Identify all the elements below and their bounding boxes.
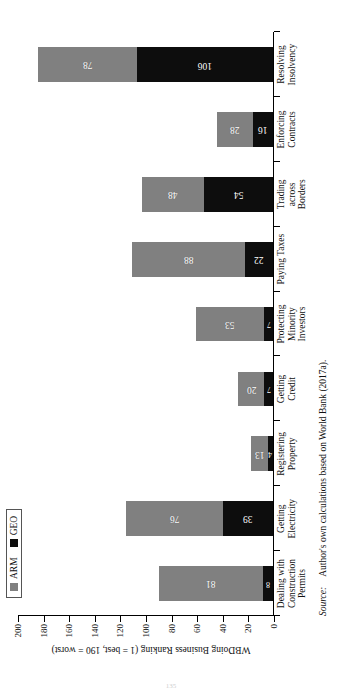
x-category-label-line: Resolving xyxy=(276,37,287,93)
bar-segment-geo[interactable]: 7 xyxy=(264,372,273,407)
x-category-label-line: Enforcing xyxy=(276,101,287,157)
y-tick-label: 160 xyxy=(65,624,74,660)
y-tick-mark xyxy=(146,616,147,622)
bar-segment-geo[interactable]: 22 xyxy=(245,242,273,277)
bar-value-label: 39 xyxy=(243,514,253,524)
bar-value-label: 4 xyxy=(268,450,272,458)
y-tick-mark xyxy=(248,616,249,622)
bar-segment-geo[interactable]: 7 xyxy=(264,307,273,342)
y-tick-label: 80 xyxy=(167,624,176,660)
y-tick-mark xyxy=(274,616,275,622)
x-category-label-line: Borders xyxy=(297,166,308,222)
bar-value-label: 8 xyxy=(266,580,270,588)
y-tick-mark xyxy=(172,616,173,622)
y-tick-mark xyxy=(44,616,45,622)
bar-value-label: 20 xyxy=(247,384,257,394)
x-category-label-line: Credit xyxy=(287,361,298,417)
x-category-label-line: Contracts xyxy=(287,101,298,157)
x-category-label: GettingElectricity xyxy=(276,491,338,547)
bar-value-label: 81 xyxy=(206,579,216,589)
bar-group[interactable]: 2288 xyxy=(132,231,273,287)
document-page: ARM GEO WBDoing Business Ranking (1 = be… xyxy=(0,0,342,694)
x-category-label-line: Property xyxy=(287,426,298,482)
y-tick-label: 180 xyxy=(39,624,48,660)
bar-group[interactable]: 5448 xyxy=(142,166,273,222)
y-tick-mark xyxy=(197,616,198,622)
y-tick-mark xyxy=(69,616,70,622)
x-category-label: RegisteringProperty xyxy=(276,426,338,482)
bar-group[interactable]: 753 xyxy=(196,296,273,352)
y-axis-ticks xyxy=(18,616,274,622)
y-tick-label: 60 xyxy=(193,624,202,660)
bar-value-label: 76 xyxy=(170,514,180,524)
bar-value-label: 16 xyxy=(258,125,268,135)
bar-segment-arm[interactable]: 48 xyxy=(142,177,203,212)
bar-value-label: 7 xyxy=(267,385,271,393)
bar-value-label: 54 xyxy=(234,190,244,200)
bar-segment-arm[interactable]: 81 xyxy=(159,566,263,601)
source-label: Source: xyxy=(318,587,328,616)
bar-segment-geo[interactable]: 8 xyxy=(263,566,273,601)
bar-segment-arm[interactable]: 76 xyxy=(126,501,223,536)
y-tick-label: 40 xyxy=(218,624,227,660)
figure-rotated-bar-chart: ARM GEO WBDoing Business Ranking (1 = be… xyxy=(0,0,342,694)
bar-group[interactable]: 10678 xyxy=(38,37,274,93)
bar-segment-arm[interactable]: 28 xyxy=(217,112,253,147)
bar-segment-geo[interactable]: 106 xyxy=(137,47,273,82)
x-category-label-line: Getting xyxy=(276,491,287,547)
source-text: Author's own calculations based on World… xyxy=(318,360,328,577)
bar-segment-arm[interactable]: 20 xyxy=(238,372,264,407)
x-category-label-line: Insolvency xyxy=(287,37,298,93)
bar-segment-arm[interactable]: 88 xyxy=(132,242,245,277)
y-tick-mark xyxy=(120,616,121,622)
x-axis-category-labels: Dealing withConstructionPermitsGettingEl… xyxy=(276,32,338,616)
y-tick-mark xyxy=(18,616,19,622)
y-tick-mark xyxy=(223,616,224,622)
x-category-label-line: Paying Taxes xyxy=(276,231,287,287)
x-category-label-line: Getting xyxy=(276,361,287,417)
y-tick-label: 140 xyxy=(90,624,99,660)
x-category-label-line: Electricity xyxy=(287,491,298,547)
y-tick-label: 0 xyxy=(270,624,279,660)
bar-groups: 881397641372075322885448162810678 xyxy=(17,32,273,616)
bar-segment-geo[interactable]: 54 xyxy=(204,177,273,212)
y-tick-label: 20 xyxy=(244,624,253,660)
bar-group[interactable]: 413 xyxy=(251,426,273,482)
bar-group[interactable]: 1628 xyxy=(217,101,273,157)
bar-value-label: 22 xyxy=(254,254,264,264)
x-category-label: GettingCredit xyxy=(276,361,338,417)
bar-value-label: 7 xyxy=(267,320,271,328)
bar-segment-arm[interactable]: 53 xyxy=(196,307,264,342)
bar-segment-geo[interactable]: 4 xyxy=(268,436,273,471)
x-category-label: ResolvingInsolvency xyxy=(276,37,338,93)
x-category-label-line: Permits xyxy=(297,556,308,612)
y-tick-label: 200 xyxy=(14,624,23,660)
bar-value-label: 13 xyxy=(255,449,265,459)
x-category-label-line: across xyxy=(287,166,298,222)
bar-segment-arm[interactable]: 13 xyxy=(251,436,268,471)
bar-value-label: 53 xyxy=(225,319,235,329)
bar-segment-geo[interactable]: 39 xyxy=(223,501,273,536)
x-category-label: TradingacrossBorders xyxy=(276,166,338,222)
x-category-label-line: Minority xyxy=(287,296,298,352)
x-category-label-line: Construction xyxy=(287,556,298,612)
bar-group[interactable]: 3976 xyxy=(126,491,273,547)
bar-value-label: 28 xyxy=(230,125,240,135)
bar-group[interactable]: 720 xyxy=(238,361,273,417)
page-folio: 135 xyxy=(0,682,342,690)
x-category-label-line: Dealing with xyxy=(276,556,287,612)
x-category-label-line: Trading xyxy=(276,166,287,222)
bar-segment-arm[interactable]: 78 xyxy=(38,47,138,82)
bar-value-label: 88 xyxy=(184,254,194,264)
x-category-label: Paying Taxes xyxy=(276,231,338,287)
y-tick-label: 120 xyxy=(116,624,125,660)
bar-value-label: 106 xyxy=(198,60,212,70)
bar-value-label: 48 xyxy=(168,190,178,200)
plot-area: 881397641372075322885448162810678 xyxy=(18,32,274,616)
bar-segment-geo[interactable]: 16 xyxy=(253,112,273,147)
y-axis-tick-labels: 020406080100120140160180200 xyxy=(18,624,274,660)
x-category-label-line: Protecting xyxy=(276,296,287,352)
bar-group[interactable]: 881 xyxy=(159,556,273,612)
x-category-label-line: Registering xyxy=(276,426,287,482)
bar-value-label: 78 xyxy=(83,60,93,70)
